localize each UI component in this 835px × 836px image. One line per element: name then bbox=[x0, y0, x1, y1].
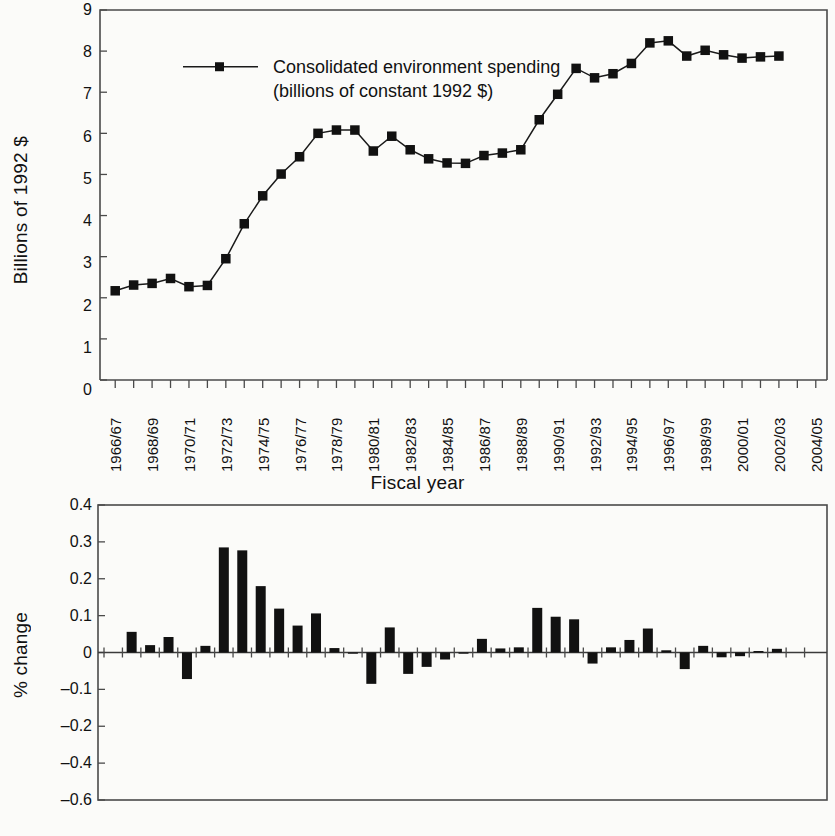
legend-label-line2: (billions of constant 1992 $) bbox=[273, 81, 493, 101]
series-data-point bbox=[571, 64, 581, 74]
top-y-axis-label-text: Billions of 1992 $ bbox=[10, 136, 32, 284]
series-data-point bbox=[110, 286, 120, 296]
y-tick-label: 5 bbox=[83, 170, 92, 188]
series-data-point bbox=[664, 36, 674, 46]
bar bbox=[532, 608, 542, 653]
series-data-point bbox=[737, 53, 747, 63]
legend-marker-swatch bbox=[215, 62, 224, 71]
x-tick-label: 1986/87 bbox=[476, 400, 493, 472]
series-data-point bbox=[369, 146, 379, 156]
x-tick-label: 1998/99 bbox=[697, 400, 714, 472]
y-tick-label: 1 bbox=[83, 339, 92, 357]
series-data-point bbox=[166, 274, 176, 284]
bar bbox=[569, 619, 579, 652]
x-tick-label: 1968/69 bbox=[144, 400, 161, 472]
bar bbox=[459, 653, 469, 654]
series-data-point bbox=[276, 169, 286, 179]
bar bbox=[753, 651, 763, 652]
series-data-point bbox=[184, 282, 194, 292]
bar bbox=[514, 647, 524, 652]
x-tick-label: 1994/95 bbox=[623, 400, 640, 472]
series-data-point bbox=[258, 191, 268, 201]
bottom-chart-plot-area bbox=[96, 500, 833, 810]
bar bbox=[274, 609, 284, 653]
y-tick-label: –0.1 bbox=[61, 680, 92, 698]
x-tick-label: 1976/77 bbox=[292, 400, 309, 472]
bar bbox=[680, 653, 690, 670]
bar bbox=[200, 646, 210, 653]
bar bbox=[182, 653, 192, 680]
series-data-point bbox=[203, 281, 213, 291]
x-tick-label: 1990/91 bbox=[550, 400, 567, 472]
bar bbox=[127, 632, 137, 653]
series-data-point bbox=[682, 51, 692, 61]
series-data-point bbox=[516, 145, 526, 155]
x-tick-label: 1988/89 bbox=[513, 400, 530, 472]
y-tick-label: 9 bbox=[83, 1, 92, 19]
y-tick-label: 4 bbox=[83, 212, 92, 230]
bottom-chart-y-axis-title: % change bbox=[6, 560, 36, 750]
y-tick-label: –0.4 bbox=[61, 754, 92, 772]
bar bbox=[588, 653, 598, 664]
series-data-point bbox=[608, 69, 618, 79]
x-tick-label: 2002/03 bbox=[771, 400, 788, 472]
bar bbox=[219, 547, 229, 652]
bar bbox=[403, 653, 413, 674]
x-tick-label: 1992/93 bbox=[587, 400, 604, 472]
bar bbox=[293, 626, 303, 653]
series-data-point bbox=[387, 131, 397, 141]
x-tick-label: 1974/75 bbox=[255, 400, 272, 472]
series-data-point bbox=[534, 115, 544, 125]
series-data-point bbox=[424, 154, 434, 164]
series-data-point bbox=[350, 125, 360, 134]
y-tick-label: 6 bbox=[83, 128, 92, 146]
bar bbox=[735, 653, 745, 657]
top-chart-x-axis-title: Fiscal year bbox=[0, 472, 835, 494]
x-tick-label: 1972/73 bbox=[218, 400, 235, 472]
series-data-point bbox=[461, 159, 471, 169]
bar bbox=[551, 617, 561, 653]
bar bbox=[624, 640, 634, 653]
bottom-chart: % change 0.4 0.3 0.2 0.1 0 –0.1 –0.2 –0.… bbox=[0, 500, 835, 836]
bar bbox=[495, 648, 505, 652]
x-tick-label: 1980/81 bbox=[365, 400, 382, 472]
figure-container: Billions of 1992 $ 9 8 7 6 5 4 3 2 1 0 C… bbox=[0, 0, 835, 836]
series-data-point bbox=[590, 73, 600, 83]
x-tick-label: 2000/01 bbox=[734, 400, 751, 472]
x-tick-label: 1970/71 bbox=[181, 400, 198, 472]
y-tick-label: 0 bbox=[83, 381, 92, 399]
legend: Consolidated environment spending(billio… bbox=[183, 57, 560, 101]
series-data-point bbox=[479, 151, 489, 161]
series-data-point bbox=[553, 90, 563, 100]
y-tick-label: 8 bbox=[83, 43, 92, 61]
series-data-point bbox=[627, 59, 637, 69]
x-axis-label-text: Fiscal year bbox=[370, 472, 464, 493]
bar bbox=[440, 653, 450, 660]
y-tick-label: 0.1 bbox=[70, 607, 92, 625]
bar bbox=[385, 627, 395, 652]
bar bbox=[311, 613, 321, 652]
series-data-point bbox=[313, 129, 323, 139]
y-tick-label: 7 bbox=[83, 85, 92, 103]
y-tick-label: 0.4 bbox=[70, 496, 92, 514]
series-data-point bbox=[221, 254, 231, 264]
series-data-point bbox=[332, 125, 342, 134]
bar bbox=[256, 586, 266, 652]
legend-label-line1: Consolidated environment spending bbox=[273, 57, 560, 77]
series-data-point bbox=[295, 152, 305, 162]
top-chart-plot-area: Consolidated environment spending(billio… bbox=[98, 0, 833, 400]
bottom-y-axis-label-text: % change bbox=[10, 612, 32, 698]
y-tick-label: –0.6 bbox=[61, 791, 92, 809]
series-data-point bbox=[147, 279, 157, 289]
bar bbox=[237, 550, 247, 652]
series-data-point bbox=[240, 219, 250, 229]
y-tick-label: –0.2 bbox=[61, 717, 92, 735]
y-tick-label: 0.2 bbox=[70, 570, 92, 588]
y-tick-label: 2 bbox=[83, 297, 92, 315]
bar bbox=[772, 649, 782, 653]
series-data-point bbox=[405, 145, 415, 155]
x-tick-label: 1978/79 bbox=[328, 400, 345, 472]
bar bbox=[717, 653, 727, 658]
top-chart-y-tick-labels: 9 8 7 6 5 4 3 2 1 0 bbox=[44, 10, 92, 390]
bar bbox=[698, 646, 708, 653]
